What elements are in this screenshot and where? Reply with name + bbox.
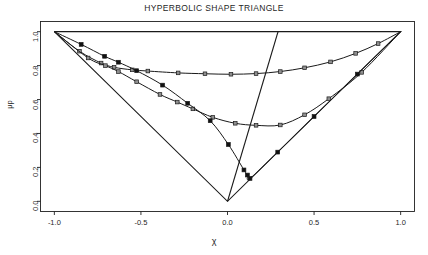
data-point-marker: [233, 121, 237, 125]
data-point-marker: [175, 100, 179, 104]
data-point-marker: [146, 69, 150, 73]
data-point-marker: [279, 123, 283, 127]
data-point-marker: [254, 124, 258, 128]
data-point-marker: [303, 113, 307, 117]
data-point-marker: [176, 71, 180, 75]
plot-frame: [41, 22, 415, 212]
data-point-marker: [376, 42, 380, 46]
series-line: [54, 32, 400, 126]
data-point-marker: [117, 70, 121, 74]
data-point-marker: [161, 83, 165, 87]
data-point-marker: [354, 52, 358, 56]
data-point-marker: [229, 72, 233, 76]
data-point-marker: [329, 60, 333, 64]
data-point-marker: [226, 143, 230, 147]
data-point-marker: [279, 70, 283, 74]
series-line: [54, 32, 400, 75]
series-lower-curve: [54, 32, 400, 181]
data-point-marker: [135, 80, 139, 84]
data-point-marker: [208, 119, 212, 123]
data-point-marker: [327, 97, 331, 101]
data-point-marker: [103, 54, 107, 58]
data-point-marker: [303, 66, 307, 70]
data-point-marker: [276, 150, 280, 154]
series-upper-curve: [54, 32, 400, 76]
series-middle-curve: [54, 32, 400, 127]
data-point-marker: [86, 56, 90, 60]
data-point-marker: [203, 72, 207, 76]
data-point-marker: [254, 72, 258, 76]
chart-figure: HYPERBOLIC SHAPE TRIANGLE χ μp -1.0-0.50…: [0, 0, 428, 255]
data-point-marker: [248, 177, 252, 181]
data-point-marker: [355, 72, 359, 76]
data-point-marker: [312, 115, 316, 119]
data-point-marker: [104, 64, 108, 68]
data-point-marker: [79, 43, 83, 47]
data-point-marker: [158, 93, 162, 97]
data-point-marker: [117, 60, 121, 64]
data-point-marker: [135, 69, 139, 73]
data-point-marker: [242, 168, 246, 172]
series-line: [54, 32, 400, 180]
plot-area: [0, 0, 428, 255]
data-point-marker: [186, 101, 190, 105]
